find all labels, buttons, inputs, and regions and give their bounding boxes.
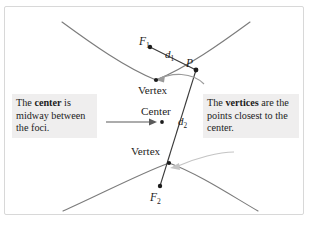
point-vertex-upper <box>154 78 158 82</box>
label-distance-lower-subscript: 2 <box>184 122 188 130</box>
label-center: Center <box>141 105 171 117</box>
label-distance-upper-subscript: 1 <box>171 55 175 63</box>
point-center <box>160 120 164 124</box>
label-focus-lower-letter: F <box>150 191 157 203</box>
callout-vertices-line1-suffix: are <box>259 97 274 108</box>
label-focus-upper-subscript: 1 <box>146 41 150 50</box>
label-focus-lower: F2 <box>150 191 161 206</box>
label-distance-lower: d2 <box>178 115 187 130</box>
callout-vertices: The vertices are the points closest to t… <box>203 94 299 138</box>
upper-branch-curve <box>62 22 250 80</box>
label-focus-upper: F1 <box>139 35 150 50</box>
callout-center-line2: midway between <box>16 110 85 121</box>
arrow-to-lower-vertex <box>178 152 234 166</box>
callout-center-line1-suffix: is <box>62 97 71 108</box>
label-focus-lower-subscript: 2 <box>157 197 161 206</box>
callout-center-line3: the foci. <box>16 122 49 133</box>
label-vertex-upper: Vertex <box>138 84 167 96</box>
label-point-p: P <box>186 57 193 69</box>
label-focus-upper-letter: F <box>139 35 146 47</box>
callout-center: The center is midway between the foci. <box>12 94 97 138</box>
callout-vertices-line1-prefix: The <box>207 97 225 108</box>
point-focus-lower <box>158 184 162 188</box>
callout-vertices-keyword: vertices <box>225 97 258 108</box>
point-p <box>194 68 199 73</box>
point-vertex-lower <box>167 161 171 165</box>
label-distance-upper: d1 <box>165 48 174 63</box>
callout-center-keyword: center <box>34 97 61 108</box>
arrow-to-center-head <box>149 119 157 126</box>
callout-center-line1-prefix: The <box>16 97 34 108</box>
label-vertex-lower: Vertex <box>131 145 160 157</box>
